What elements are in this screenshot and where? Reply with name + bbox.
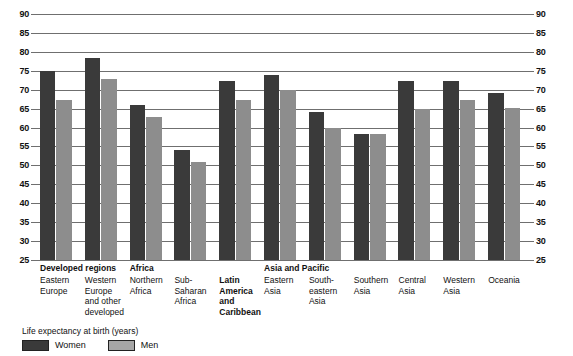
legend-items: WomenMen: [22, 340, 180, 351]
bar-men: [56, 100, 72, 260]
y-axis-label-left: 50: [19, 161, 29, 170]
y-axis-label-right: 45: [536, 180, 546, 189]
category-name-line: Oceania: [488, 275, 547, 286]
bar-group: [484, 14, 529, 260]
bar-women: [40, 71, 56, 260]
bar-women: [174, 150, 190, 260]
bar-men: [146, 117, 162, 260]
bar-group: [81, 14, 126, 260]
y-axis-label-right: 50: [536, 161, 546, 170]
bar-women: [488, 93, 504, 260]
axis-tick-right: [529, 203, 534, 204]
legend-label: Women: [55, 341, 86, 350]
axis-tick-right: [529, 71, 534, 72]
y-axis-label-right: 30: [536, 237, 546, 246]
bar-group: [126, 14, 171, 260]
y-axis-label-left: 70: [19, 86, 29, 95]
y-axis-label-right: 35: [536, 218, 546, 227]
legend-swatch: [108, 340, 135, 351]
plot-area: 9090858580807575707065656060555550504545…: [36, 14, 529, 260]
category-name-line: Asia: [309, 296, 368, 307]
y-axis-label-left: 80: [19, 48, 29, 57]
axis-tick-left: [31, 260, 36, 261]
bar-men: [236, 100, 252, 260]
y-axis-label-right: 80: [536, 48, 546, 57]
y-axis-label-left: 40: [19, 199, 29, 208]
axis-tick-right: [529, 146, 534, 147]
bar-men: [505, 108, 521, 260]
y-axis-label-left: 85: [19, 29, 29, 38]
y-axis-label-left: 25: [19, 256, 29, 265]
y-axis-label-right: 55: [536, 142, 546, 151]
bar-men: [415, 109, 431, 260]
bar-group: [260, 14, 305, 260]
axis-tick-right: [529, 128, 534, 129]
axis-tick-right: [529, 260, 534, 261]
bar-women: [85, 58, 101, 260]
y-axis-label-left: 75: [19, 67, 29, 76]
axis-tick-right: [529, 90, 534, 91]
axis-tick-right: [529, 184, 534, 185]
category-labels: Developed regionsEasternEurope WesternEu…: [36, 263, 529, 325]
gridline: [36, 260, 529, 261]
y-axis-label-left: 45: [19, 180, 29, 189]
y-axis-label-left: 55: [19, 142, 29, 151]
axis-tick-right: [529, 52, 534, 53]
legend-swatch: [22, 340, 49, 351]
legend-item: Men: [108, 340, 159, 351]
bar-men: [370, 134, 386, 260]
bar-group: [36, 14, 81, 260]
category-name-line: and: [219, 296, 278, 307]
bar-women: [354, 134, 370, 260]
bar-group: [215, 14, 260, 260]
axis-tick-right: [529, 14, 534, 15]
legend-item: Women: [22, 340, 86, 351]
bar-women: [264, 75, 280, 260]
y-axis-label-left: 90: [19, 10, 29, 19]
bar-group: [350, 14, 395, 260]
y-axis-label-right: 85: [536, 29, 546, 38]
category-name-line: Asia: [443, 286, 502, 297]
bar-men: [101, 79, 117, 260]
y-axis-label-left: 30: [19, 237, 29, 246]
y-axis-label-right: 90: [536, 10, 546, 19]
axis-tick-right: [529, 241, 534, 242]
bar-men: [191, 162, 207, 260]
bar-group: [439, 14, 484, 260]
y-axis-label-left: 60: [19, 124, 29, 133]
chart-root: 9090858580807575707065656060555550504545…: [0, 0, 573, 356]
y-axis-label-right: 65: [536, 105, 546, 114]
bar-women: [443, 81, 459, 260]
axis-tick-right: [529, 33, 534, 34]
y-axis-label-left: 35: [19, 218, 29, 227]
bar-women: [398, 81, 414, 260]
y-axis-label-left: 65: [19, 105, 29, 114]
y-axis-label-right: 40: [536, 199, 546, 208]
bar-group: [305, 14, 350, 260]
bar-group: [170, 14, 215, 260]
bars-layer: [36, 14, 529, 260]
category-name-line: Caribbean: [219, 307, 278, 318]
legend-label: Men: [141, 341, 159, 350]
bar-group: [395, 14, 440, 260]
bar-women: [130, 105, 146, 260]
bar-women: [219, 81, 235, 260]
bar-men: [460, 100, 476, 260]
category-name-line: developed: [85, 307, 144, 318]
axis-tick-right: [529, 109, 534, 110]
category-name-line: and other: [85, 296, 144, 307]
bar-women: [309, 112, 325, 260]
bar-men: [325, 128, 341, 260]
legend-title: Life expectancy at birth (years): [22, 326, 180, 336]
y-axis-label-right: 75: [536, 67, 546, 76]
y-axis-label-right: 60: [536, 124, 546, 133]
category-label: Oceania: [488, 263, 547, 286]
y-axis-label-right: 70: [536, 86, 546, 95]
axis-tick-right: [529, 165, 534, 166]
bar-men: [280, 90, 296, 260]
axis-tick-right: [529, 222, 534, 223]
chart-legend: Life expectancy at birth (years) WomenMe…: [22, 326, 180, 351]
